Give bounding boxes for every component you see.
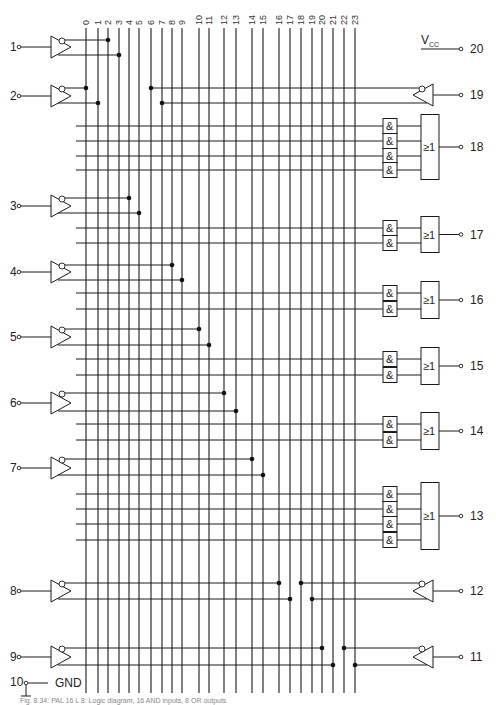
or-gate-label: ≥1 xyxy=(423,360,435,372)
connection-dot xyxy=(117,53,122,58)
connection-dot xyxy=(353,663,358,668)
gnd-pin[interactable] xyxy=(24,681,28,685)
gnd-label: GND xyxy=(55,676,82,690)
connection-dot xyxy=(320,646,325,651)
io-pin-number: 12 xyxy=(470,584,484,598)
column-number: 19 xyxy=(307,15,317,25)
inverter-bubble xyxy=(59,581,65,587)
io-pin[interactable] xyxy=(459,93,463,97)
gnd-pin-number: 10 xyxy=(10,675,24,689)
io-pin-number: 11 xyxy=(470,650,483,664)
input-pin-number: 5 xyxy=(10,330,17,344)
vcc-label: V xyxy=(421,33,429,47)
power-pins: VCC2010GNDFig. 8.34: PAL 16 L 8: Logic d… xyxy=(10,33,484,705)
input-pin[interactable] xyxy=(17,45,21,49)
figure-caption: Fig. 8.34: PAL 16 L 8: Logic diagram, 16… xyxy=(20,697,227,705)
io-pin[interactable] xyxy=(459,655,463,659)
connection-dot xyxy=(197,327,202,332)
and-gate-label: & xyxy=(386,164,394,176)
output-pin[interactable] xyxy=(459,364,463,368)
output-pin[interactable] xyxy=(459,514,463,518)
and-gate-label: & xyxy=(386,303,394,315)
and-gate-label: & xyxy=(386,120,394,132)
io-pin[interactable] xyxy=(459,589,463,593)
input-pin[interactable] xyxy=(17,204,21,208)
input-pin[interactable] xyxy=(17,589,21,593)
output-pin[interactable] xyxy=(459,233,463,237)
connection-dot xyxy=(207,343,212,348)
column-number: 4 xyxy=(124,20,134,25)
vcc-pin-number: 20 xyxy=(470,42,484,56)
product-term-rows xyxy=(76,126,383,540)
input-pin-number: 3 xyxy=(10,199,17,213)
vcc-subscript: CC xyxy=(429,41,439,48)
inverter-bubble xyxy=(419,86,425,92)
connection-dot xyxy=(288,597,293,602)
input-pin-number: 6 xyxy=(10,396,17,410)
and-gate-label: & xyxy=(386,353,394,365)
inverter-bubble xyxy=(419,581,425,587)
column-number: 0 xyxy=(81,20,91,25)
output-pin[interactable] xyxy=(459,298,463,302)
input-pin[interactable] xyxy=(17,466,21,470)
input-pin[interactable] xyxy=(17,655,21,659)
connection-dot xyxy=(149,86,154,91)
and-gate-label: & xyxy=(386,518,394,530)
and-gate-label: & xyxy=(386,135,394,147)
input-pin[interactable] xyxy=(17,270,21,274)
connection-dot xyxy=(250,457,255,462)
output-pin[interactable] xyxy=(459,429,463,433)
inverter-bubble xyxy=(419,646,425,652)
input-pin[interactable] xyxy=(17,401,21,405)
and-gate-label: & xyxy=(386,434,394,446)
input-pin-number: 9 xyxy=(10,650,17,664)
input-pin-number: 2 xyxy=(10,89,17,103)
inverter-bubble xyxy=(59,38,65,44)
column-number: 13 xyxy=(231,15,241,25)
column-number: 22 xyxy=(339,15,349,25)
connection-dot xyxy=(342,646,347,651)
input-pin-number: 4 xyxy=(10,265,17,279)
inverter-bubble xyxy=(59,263,65,269)
inverter-bubble xyxy=(59,196,65,202)
connection-dot xyxy=(331,663,336,668)
column-number: 7 xyxy=(157,20,167,25)
output-pin-number: 13 xyxy=(470,509,484,523)
connection-dot xyxy=(261,473,266,478)
connection-dot xyxy=(127,196,132,201)
connection-dot xyxy=(96,101,101,106)
and-gate-label: & xyxy=(386,237,394,249)
and-gate-label: & xyxy=(386,369,394,381)
connection-dot xyxy=(277,581,282,586)
input-buffers: 123456789 xyxy=(10,36,335,668)
and-gate-label: & xyxy=(386,503,394,515)
pal-logic-diagram: 01234567891011121314151617181920212223 1… xyxy=(0,0,496,705)
connection-dot xyxy=(234,409,239,414)
column-number: 14 xyxy=(247,15,257,25)
input-pin[interactable] xyxy=(17,94,21,98)
column-number: 11 xyxy=(204,16,214,25)
output-pin-number: 14 xyxy=(470,424,484,438)
or-gate-label: ≥1 xyxy=(423,425,435,437)
and-gate-label: & xyxy=(386,150,394,162)
vcc-pin[interactable] xyxy=(459,47,463,51)
output-pin-number: 18 xyxy=(470,140,484,154)
input-columns: 01234567891011121314151617181920212223 xyxy=(81,15,360,693)
connection-dot xyxy=(299,581,304,586)
column-number: 21 xyxy=(328,15,338,25)
connection-dot xyxy=(84,86,89,91)
connection-dot xyxy=(160,101,165,106)
column-number: 9 xyxy=(177,20,187,25)
inverter-bubble xyxy=(59,646,65,652)
io-pin-number: 19 xyxy=(470,88,484,102)
or-gate-label: ≥1 xyxy=(423,510,435,522)
input-pin[interactable] xyxy=(17,335,21,339)
or-gate-label: ≥1 xyxy=(423,141,435,153)
column-number: 1 xyxy=(93,20,103,25)
inverter-bubble xyxy=(59,327,65,333)
column-number: 16 xyxy=(274,15,284,25)
output-pin[interactable] xyxy=(459,145,463,149)
input-pin-number: 1 xyxy=(10,40,17,54)
connection-dot xyxy=(180,278,185,283)
connection-dot xyxy=(137,211,142,216)
